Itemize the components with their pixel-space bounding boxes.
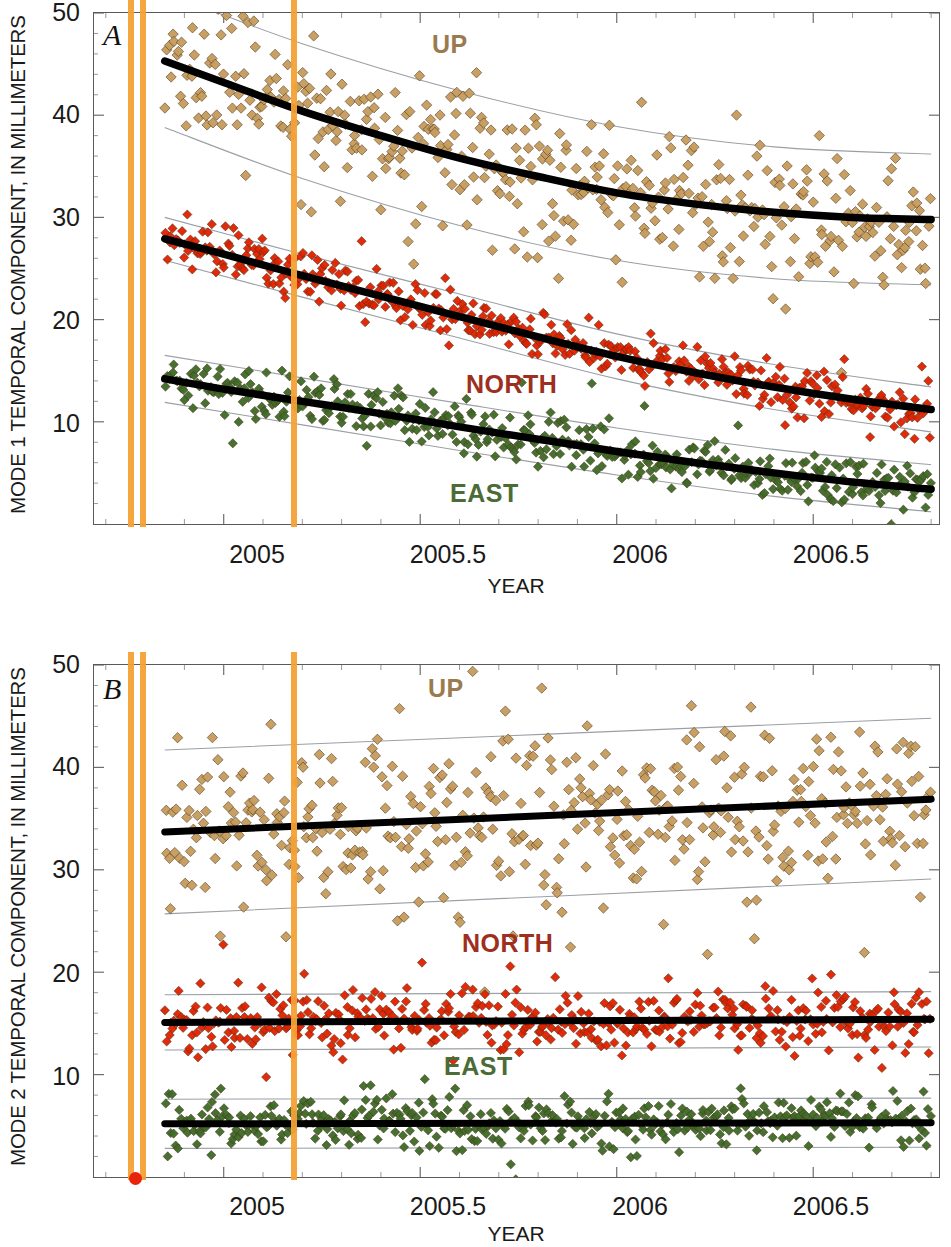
panel-a-ytick-20: 20 bbox=[34, 306, 80, 335]
panel-a-label-north: NORTH bbox=[466, 370, 557, 399]
panel-a-plot-area bbox=[94, 13, 939, 524]
panel-b-xtick-2005-5: 2005.5 bbox=[383, 1192, 513, 1221]
panel-b-xtick-2006-5: 2006.5 bbox=[766, 1192, 896, 1221]
panel-b-xtick-2006: 2006 bbox=[575, 1192, 705, 1221]
panel-b-label-up: UP bbox=[428, 674, 464, 703]
panel-a-xtick-2005-5: 2005.5 bbox=[383, 540, 513, 569]
panel-b-label-east: EAST bbox=[444, 1052, 513, 1081]
panel-a-x-axis-title: YEAR bbox=[416, 574, 616, 598]
panel-a-label-up: UP bbox=[432, 30, 468, 59]
panel-b-xtick-2005: 2005 bbox=[192, 1192, 322, 1221]
panel-a-event-line-3 bbox=[291, 0, 297, 527]
panel-b-x-axis-title: YEAR bbox=[416, 1222, 616, 1246]
panel-a-ytick-50: 50 bbox=[34, 0, 80, 27]
panel-b-event-line-1 bbox=[128, 652, 134, 1180]
panel-b-ytick-40: 40 bbox=[34, 752, 80, 781]
panel-a-letter: A bbox=[103, 18, 121, 52]
panel-a-xtick-2005: 2005 bbox=[192, 540, 322, 569]
panel-a-xtick-2006-5: 2006.5 bbox=[766, 540, 896, 569]
panel-a-ytick-30: 30 bbox=[34, 203, 80, 232]
panel-b-event-line-3 bbox=[291, 652, 297, 1180]
panel-b-label-north: NORTH bbox=[462, 929, 553, 958]
panel-b-ytick-50: 50 bbox=[34, 650, 80, 679]
panel-a-xtick-2006: 2006 bbox=[575, 540, 705, 569]
panel-b-ytick-20: 20 bbox=[34, 959, 80, 988]
panel-b-y-axis-title: MODE 2 TEMPORAL COMPONENT, IN MILLIMETER… bbox=[6, 666, 30, 1166]
panel-a-y-axis-title: MODE 1 TEMPORAL COMPONENT, IN MILLIMETER… bbox=[6, 14, 30, 514]
panel-a-ytick-40: 40 bbox=[34, 100, 80, 129]
panel-b-ytick-30: 30 bbox=[34, 855, 80, 884]
panel-b-plot-area bbox=[94, 665, 939, 1177]
panel-a-ytick-10: 10 bbox=[34, 409, 80, 438]
panel-b-event-marker-dot bbox=[129, 1172, 142, 1185]
panel-a-event-line-2 bbox=[140, 0, 146, 527]
panel-a-event-line-1 bbox=[128, 0, 134, 527]
panel-b-ytick-10: 10 bbox=[34, 1062, 80, 1091]
panel-b-letter: B bbox=[103, 672, 121, 706]
panel-b-event-line-2 bbox=[140, 652, 146, 1180]
panel-a-label-east: EAST bbox=[450, 479, 519, 508]
